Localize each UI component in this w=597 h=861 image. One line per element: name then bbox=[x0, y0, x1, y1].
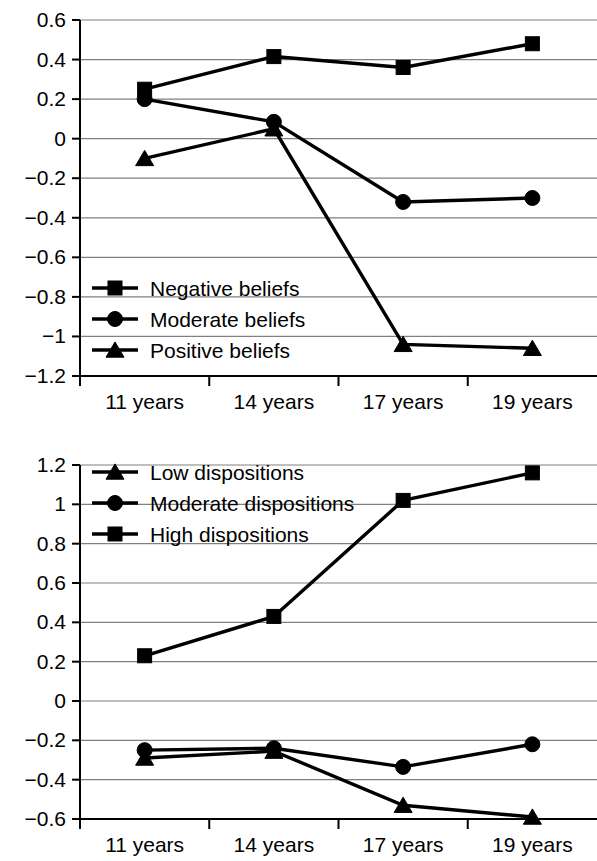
data-point-square bbox=[267, 609, 281, 623]
data-point-circle bbox=[525, 191, 540, 206]
dispositions-chart: 1.210.80.60.40.20−0.2−0.4−0.611 years14 … bbox=[0, 430, 597, 861]
y-axis-tick-label: 0.6 bbox=[37, 8, 66, 31]
y-axis-tick-label: 0.2 bbox=[37, 87, 66, 110]
x-axis-category-label: 17 years bbox=[363, 833, 444, 856]
legend-marker-circle bbox=[108, 496, 123, 511]
data-point-circle bbox=[396, 759, 411, 774]
legend-label: Moderate beliefs bbox=[150, 308, 305, 331]
y-axis-tick-label: −0.6 bbox=[25, 245, 66, 268]
legend-marker-square bbox=[108, 527, 122, 541]
data-point-circle bbox=[525, 737, 540, 752]
y-axis-tick-label: −0.2 bbox=[25, 166, 66, 189]
x-axis-category-label: 11 years bbox=[105, 390, 184, 413]
data-point-square bbox=[525, 37, 539, 51]
y-axis-tick-label: −0.6 bbox=[25, 807, 66, 830]
legend-label: High dispositions bbox=[150, 523, 309, 546]
x-axis-category-label: 19 years bbox=[492, 833, 573, 856]
y-axis-tick-label: 0.2 bbox=[37, 650, 66, 673]
data-point-square bbox=[138, 649, 152, 663]
y-axis-tick-label: −1.2 bbox=[25, 364, 66, 387]
y-axis-tick-label: −1 bbox=[42, 324, 66, 347]
legend-label: Low dispositions bbox=[150, 461, 304, 484]
x-axis-category-label: 19 years bbox=[492, 390, 573, 413]
y-axis-tick-label: −0.8 bbox=[25, 285, 66, 308]
y-axis-tick-label: 0.8 bbox=[37, 532, 66, 555]
x-axis-category-label: 14 years bbox=[234, 833, 315, 856]
y-axis-tick-label: 0 bbox=[54, 689, 66, 712]
x-axis-category-label: 14 years bbox=[234, 390, 315, 413]
data-point-square bbox=[525, 466, 539, 480]
y-axis-tick-label: 0.4 bbox=[37, 48, 67, 71]
beliefs-chart-canvas: 0.60.40.20−0.2−0.4−0.6−0.8−1−1.211 years… bbox=[0, 0, 597, 430]
y-axis-tick-label: 0 bbox=[54, 127, 66, 150]
legend-label: Moderate dispositions bbox=[150, 492, 354, 515]
beliefs-chart: 0.60.40.20−0.2−0.4−0.6−0.8−1−1.211 years… bbox=[0, 0, 597, 430]
data-point-square bbox=[396, 60, 410, 74]
y-axis-tick-label: −0.4 bbox=[25, 768, 67, 791]
data-point-circle bbox=[396, 194, 411, 209]
legend-label: Negative beliefs bbox=[150, 277, 299, 300]
series-line-low-dispositions bbox=[145, 751, 533, 817]
data-point-square bbox=[267, 50, 281, 64]
x-axis-category-label: 17 years bbox=[363, 390, 444, 413]
y-axis-tick-label: 1.2 bbox=[37, 453, 66, 476]
y-axis-tick-label: −0.4 bbox=[25, 206, 67, 229]
dispositions-chart-canvas: 1.210.80.60.40.20−0.2−0.4−0.611 years14 … bbox=[0, 430, 597, 861]
legend-marker-square bbox=[108, 281, 122, 295]
data-point-circle bbox=[137, 92, 152, 107]
y-axis-tick-label: 1 bbox=[54, 492, 66, 515]
y-axis-tick-label: −0.2 bbox=[25, 728, 66, 751]
series-line-moderate-beliefs bbox=[145, 99, 533, 202]
series-line-negative-beliefs bbox=[145, 44, 533, 89]
y-axis-tick-label: 0.6 bbox=[37, 571, 66, 594]
data-point-circle bbox=[266, 741, 281, 756]
legend-label: Positive beliefs bbox=[150, 339, 290, 362]
y-axis-tick-label: 0.4 bbox=[37, 610, 67, 633]
x-axis-category-label: 11 years bbox=[105, 833, 184, 856]
data-point-circle bbox=[137, 743, 152, 758]
data-point-square bbox=[396, 493, 410, 507]
legend-marker-circle bbox=[108, 312, 123, 327]
figure-page: 0.60.40.20−0.2−0.4−0.6−0.8−1−1.211 years… bbox=[0, 0, 597, 861]
